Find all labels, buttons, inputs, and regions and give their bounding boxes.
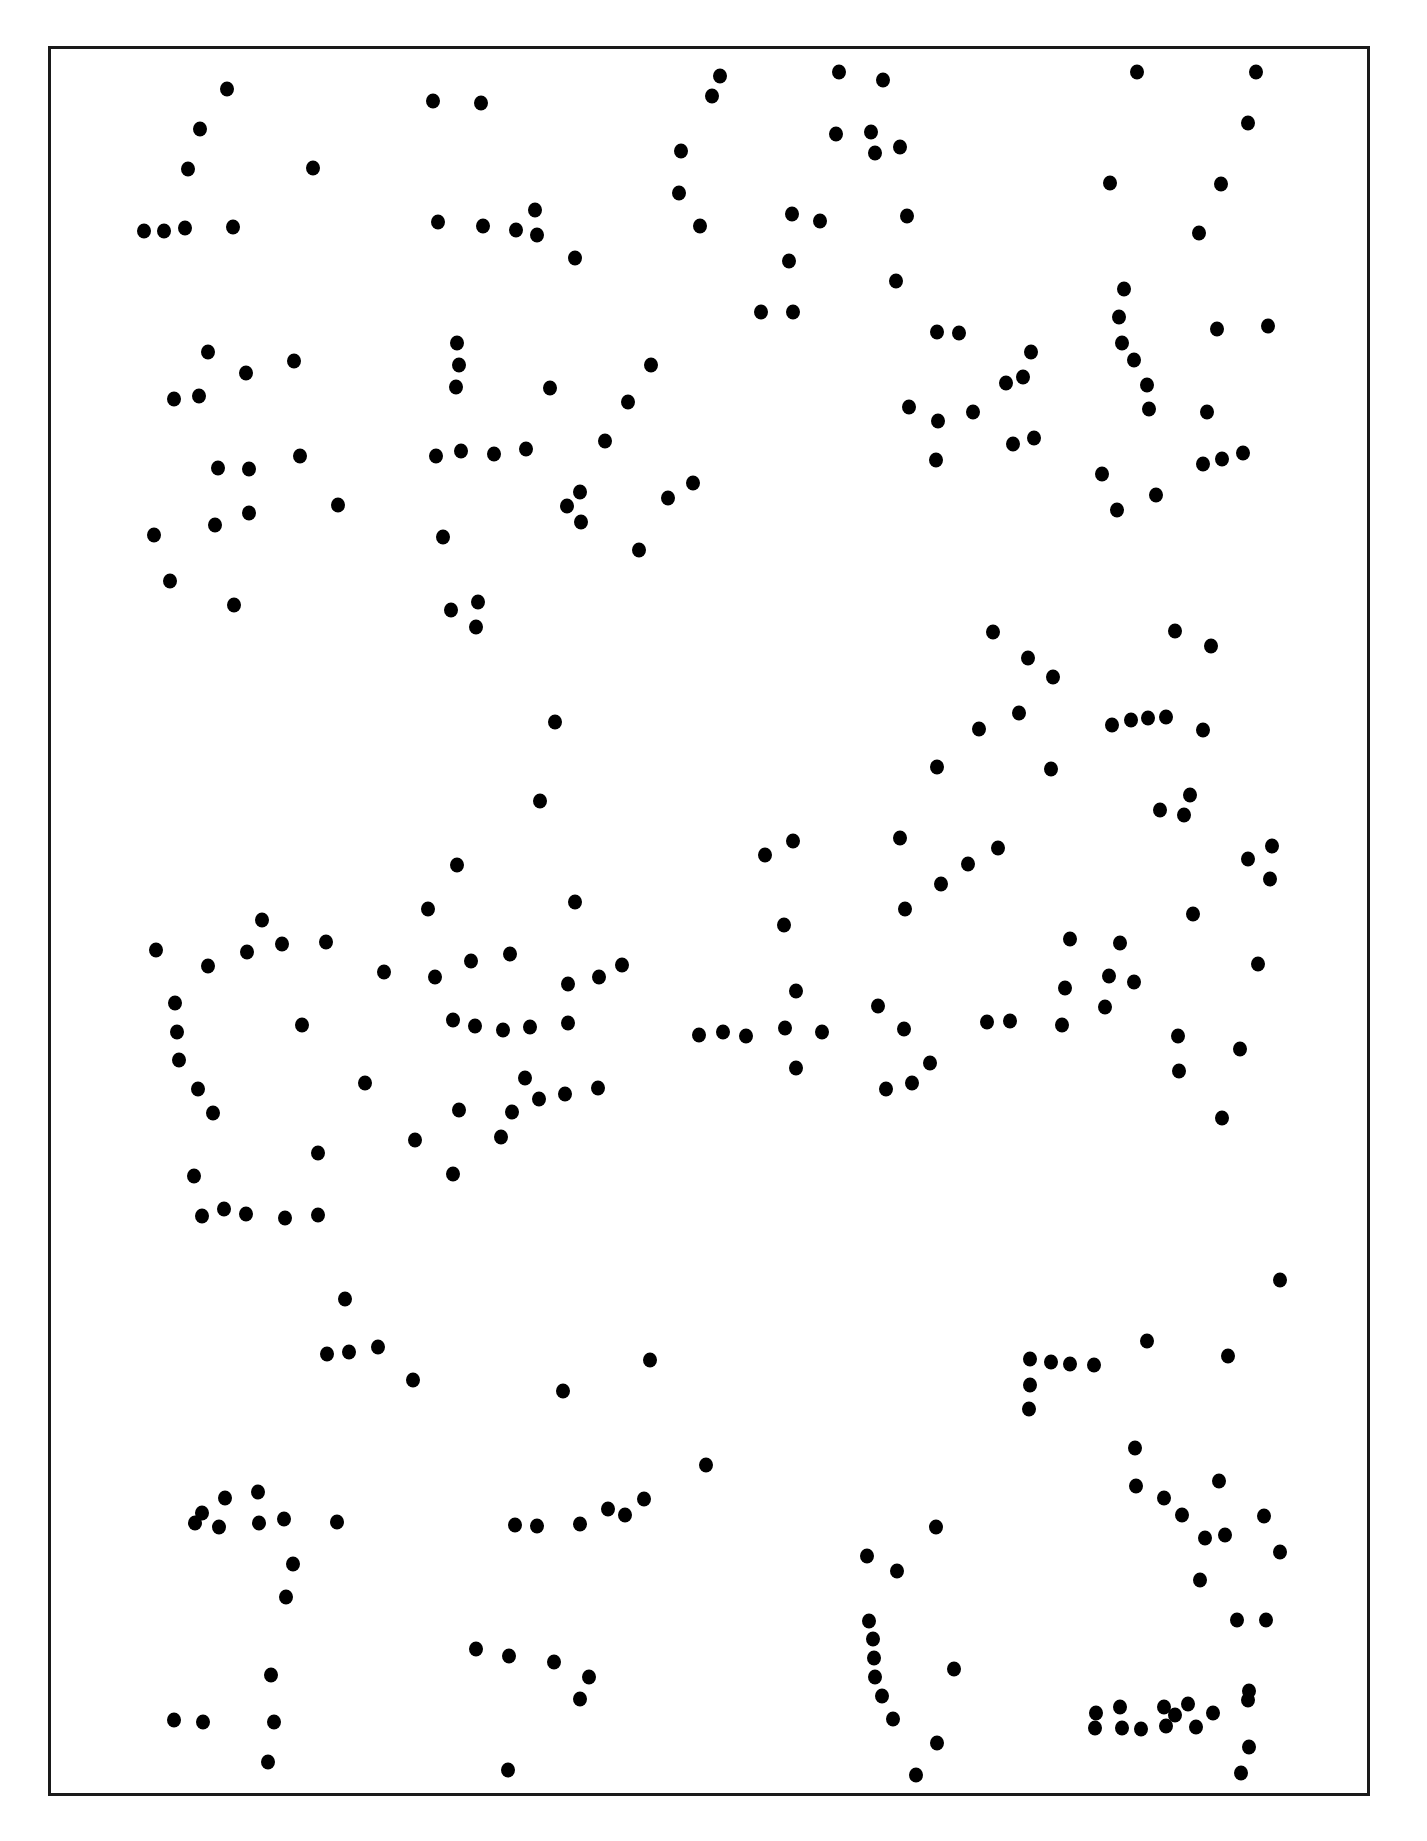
dot-109 [1044, 762, 1058, 777]
dot-99 [1149, 488, 1163, 503]
dot-124 [421, 902, 435, 917]
dot-66 [560, 499, 574, 514]
dot-30 [782, 254, 796, 269]
dot-91 [1142, 402, 1156, 417]
dot-29 [813, 214, 827, 229]
dot-233 [1023, 1378, 1037, 1393]
dot-205 [371, 1340, 385, 1355]
dot-283 [1088, 1721, 1102, 1736]
dot-73 [471, 595, 485, 610]
dot-135 [503, 947, 517, 962]
dot-118 [1153, 803, 1167, 818]
dot-56 [449, 380, 463, 395]
dot-266 [547, 1655, 561, 1670]
dot-138 [561, 977, 575, 992]
dot-101 [548, 715, 562, 730]
dot-123 [450, 858, 464, 873]
dot-280 [1242, 1740, 1256, 1755]
dot-150 [191, 1082, 205, 1097]
dot-213 [212, 1520, 226, 1535]
dot-64 [519, 442, 533, 457]
dot-255 [886, 1712, 900, 1727]
dot-38 [1214, 177, 1228, 192]
dot-75 [930, 325, 944, 340]
dot-128 [201, 959, 215, 974]
dot-216 [277, 1512, 291, 1527]
dot-252 [867, 1651, 881, 1666]
dot-132 [377, 965, 391, 980]
dot-236 [1129, 1479, 1143, 1494]
dot-100 [1110, 503, 1124, 518]
dot-179 [739, 1029, 753, 1044]
dot-18 [674, 144, 688, 159]
dot-256 [947, 1662, 961, 1677]
dot-98 [1095, 467, 1109, 482]
dot-226 [699, 1458, 713, 1473]
dot-147 [172, 1053, 186, 1068]
dot-24 [864, 125, 878, 140]
dot-112 [1105, 718, 1119, 733]
dot-33 [786, 305, 800, 320]
dot-242 [1257, 1509, 1271, 1524]
dot-93 [1261, 319, 1275, 334]
dot-68 [661, 491, 675, 506]
dot-20 [693, 219, 707, 234]
dot-232 [1221, 1349, 1235, 1364]
dot-94 [1200, 405, 1214, 420]
dot-201 [1215, 1111, 1229, 1126]
dot-57 [543, 381, 557, 396]
dot-224 [618, 1508, 632, 1523]
dot-247 [860, 1549, 874, 1564]
dot-4 [137, 224, 151, 239]
dot-193 [1058, 981, 1072, 996]
dot-17 [705, 89, 719, 104]
dot-13 [528, 203, 542, 218]
dot-110 [1168, 624, 1182, 639]
dot-259 [167, 1713, 181, 1728]
dot-50 [208, 518, 222, 533]
dot-249 [929, 1520, 943, 1535]
dot-58 [644, 358, 658, 373]
dot-276 [1181, 1697, 1195, 1712]
dot-34 [1130, 65, 1144, 80]
dot-180 [778, 1021, 792, 1036]
dot-7 [226, 220, 240, 235]
dot-31 [889, 274, 903, 289]
dot-2 [181, 162, 195, 177]
dot-8 [426, 94, 440, 109]
dot-126 [255, 913, 269, 928]
dot-231 [1140, 1334, 1154, 1349]
dot-165 [278, 1211, 292, 1226]
dot-130 [275, 937, 289, 952]
dot-121 [1241, 852, 1255, 867]
dot-182 [897, 1022, 911, 1037]
dot-208 [643, 1353, 657, 1368]
dot-9 [474, 96, 488, 111]
dot-97 [1236, 446, 1250, 461]
dot-136 [615, 958, 629, 973]
dot-186 [879, 1082, 893, 1097]
dot-76 [952, 326, 966, 341]
dot-211 [218, 1491, 232, 1506]
dot-198 [1251, 957, 1265, 972]
dot-240 [1218, 1528, 1232, 1543]
dot-190 [1113, 936, 1127, 951]
dot-151 [532, 1092, 546, 1107]
dot-271 [1113, 1700, 1127, 1715]
dot-field [0, 0, 1427, 1841]
dot-69 [686, 476, 700, 491]
dot-199 [1233, 1042, 1247, 1057]
dot-164 [239, 1207, 253, 1222]
dot-79 [999, 376, 1013, 391]
dot-241 [1212, 1474, 1226, 1489]
dot-262 [267, 1715, 281, 1730]
dot-253 [868, 1670, 882, 1685]
dot-21 [832, 65, 846, 80]
dot-258 [909, 1768, 923, 1783]
dot-95 [1196, 457, 1210, 472]
dot-192 [1127, 975, 1141, 990]
dot-221 [530, 1519, 544, 1534]
dot-92 [1210, 322, 1224, 337]
dot-225 [637, 1492, 651, 1507]
dot-67 [574, 515, 588, 530]
